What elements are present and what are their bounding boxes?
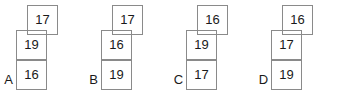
figure-a-middle-cell: 19 xyxy=(16,30,47,60)
figure-b-middle-cell: 16 xyxy=(101,30,132,60)
figure-c-bottom-cell: 17 xyxy=(186,60,217,90)
figure-d-bottom-cell: 19 xyxy=(271,60,302,90)
figure-d: 16 17 19 D xyxy=(255,0,340,99)
figure-c-middle-cell: 19 xyxy=(186,30,217,60)
figure-b-label: B xyxy=(87,60,100,90)
figure-c: 16 19 17 C xyxy=(170,0,255,99)
figure-a: 17 19 16 A xyxy=(0,0,85,99)
figure-b-bottom-cell: 19 xyxy=(101,60,132,90)
figure-b: 17 16 19 B xyxy=(85,0,170,99)
figure-d-middle-cell: 17 xyxy=(271,30,302,60)
figure-c-label: C xyxy=(172,60,185,90)
figure-d-label: D xyxy=(257,60,270,90)
diagram-canvas: 17 19 16 A 17 16 19 B 16 19 17 C 16 17 1… xyxy=(0,0,350,99)
figure-a-bottom-cell: 16 xyxy=(16,60,47,90)
figure-a-label: A xyxy=(2,60,15,90)
